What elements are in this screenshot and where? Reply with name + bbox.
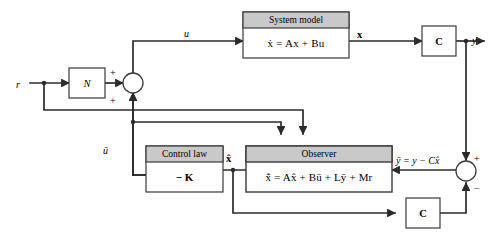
label-system-model-equation: ẋ = Ax + Bu [243, 28, 349, 58]
sign-right-sum-top: + [474, 148, 480, 166]
label-system-model-header: System model [243, 12, 349, 28]
label-control-law-header: Control law [146, 146, 223, 162]
right-summing-junction [456, 161, 476, 181]
label-signal-ubar: ū [103, 140, 108, 158]
wire-sum-to-system-model [133, 41, 243, 74]
label-observer-equation: x̂̇ = Ax̂ + Bū + Lȳ + Mr [246, 162, 392, 192]
label-signal-innovation: ȳ = y − Cx̂ [396, 150, 439, 168]
sign-left-sum-bottom: + [110, 90, 116, 108]
label-signal-x: x [357, 24, 362, 42]
label-signal-y: y [472, 30, 476, 48]
label-signal-u: u [184, 23, 189, 41]
wire-chatx-to-right-sum [440, 183, 466, 213]
left-summing-junction [123, 73, 143, 93]
label-control-law-gain: − K [146, 162, 223, 192]
label-prefilter-n: N [69, 68, 105, 98]
label-output-matrix-top: C [422, 26, 456, 56]
sign-right-sum-bottom: − [474, 178, 480, 196]
block-diagram-canvas: r N System model ẋ = Ax + Bu u x C y ū… [0, 0, 491, 244]
wire-ubar-to-observer [133, 122, 281, 134]
label-observer-header: Observer [246, 146, 392, 162]
sign-left-sum-top: + [110, 62, 116, 80]
label-output-matrix-bottom: C [406, 198, 440, 228]
wire-ubar-down-to-controllaw [133, 93, 146, 175]
label-reference-r: r [16, 74, 20, 92]
label-signal-xhat: x̂ [226, 148, 231, 166]
